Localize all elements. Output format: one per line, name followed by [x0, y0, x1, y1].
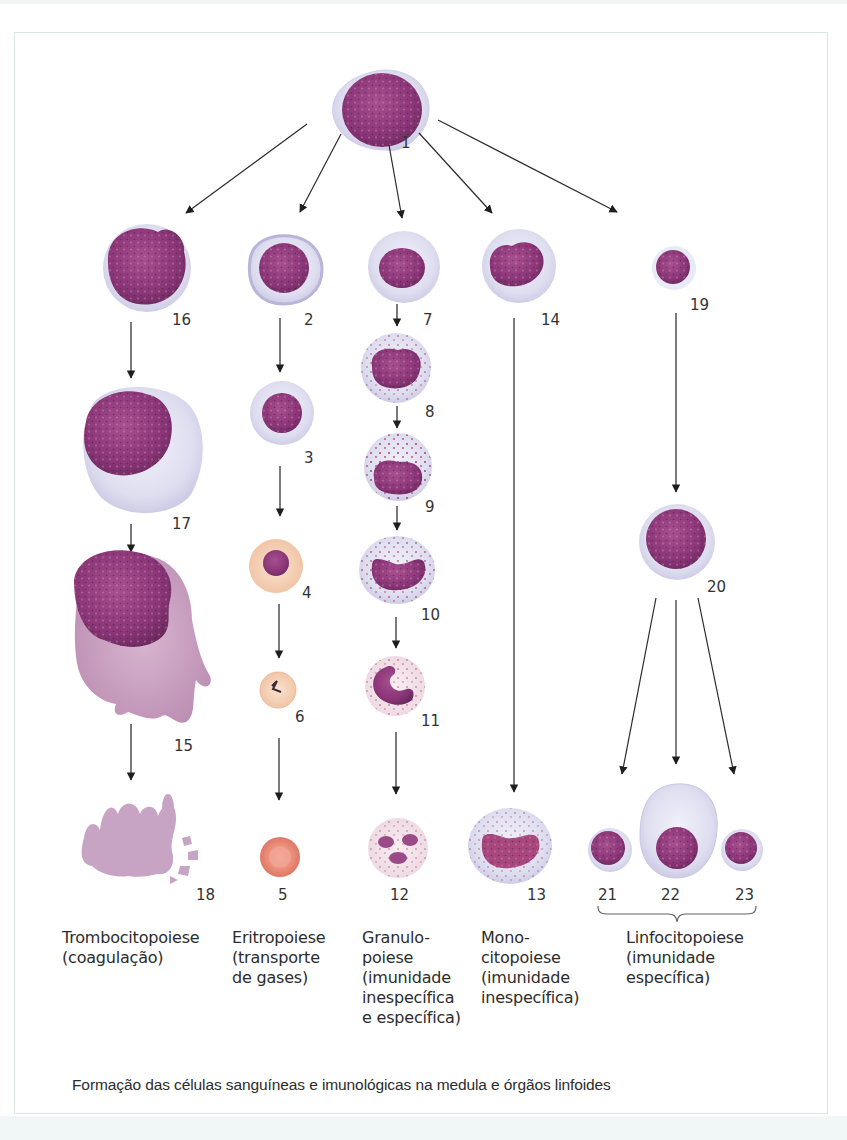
cell-label-11: 11	[421, 714, 440, 729]
cell-label-9: 9	[425, 500, 435, 515]
lineage-caption-granulopoiese: Granulo- poiese (imunidade inespecífica …	[362, 928, 461, 1028]
cell-12	[368, 818, 428, 878]
cell-9	[364, 433, 432, 501]
arrows-from-20	[622, 598, 734, 774]
cell-label-10: 10	[421, 608, 440, 623]
cell-22	[640, 784, 717, 878]
cell-label-4: 4	[302, 586, 312, 601]
cell-14	[482, 229, 556, 303]
cell-2	[249, 236, 322, 304]
cell-label-23: 23	[735, 888, 754, 903]
lineage-caption-linfocitopoiese: Linfocitopoiese (imunidade específica)	[626, 928, 744, 988]
cell-13	[468, 808, 552, 884]
cell-6	[260, 672, 296, 708]
cell-label-19: 19	[690, 298, 709, 313]
cell-label-20: 20	[707, 580, 726, 595]
cell-20	[639, 504, 715, 580]
lineage-caption-eritropoiese: Eritropoiese (transporte de gases)	[232, 928, 325, 988]
cell-23	[721, 829, 763, 871]
cell-10	[359, 536, 435, 604]
cell-5	[260, 837, 300, 877]
cell-label-6: 6	[295, 710, 305, 725]
cell-4	[249, 539, 303, 593]
cell-label-3: 3	[304, 451, 314, 466]
lineage-caption-trombocitopoiese: Trombocitopoiese (coagulação)	[62, 928, 200, 968]
cell-label-2: 2	[304, 313, 314, 328]
cell-label-22: 22	[661, 888, 680, 903]
cell-label-15: 15	[174, 739, 193, 754]
cell-21	[588, 828, 632, 872]
cell-1	[333, 70, 429, 150]
cell-label-14: 14	[541, 313, 560, 328]
cell-label-18: 18	[196, 888, 215, 903]
cell-label-8: 8	[425, 405, 435, 420]
figure-caption: Formação das células sanguíneas e imunol…	[72, 1076, 611, 1094]
cell-label-12: 12	[390, 888, 409, 903]
cell-label-5: 5	[278, 888, 288, 903]
lineage-caption-monocitopoiese: Mono- citopoiese (imunidade inespecífica…	[481, 928, 579, 1008]
cell-3	[250, 381, 314, 445]
cell-18	[82, 794, 198, 884]
cell-7	[368, 231, 440, 303]
cell-label-1: 1	[401, 136, 411, 151]
cell-16	[103, 224, 191, 312]
cell-15	[74, 550, 211, 722]
cell-17	[83, 387, 203, 513]
lymphocyte-brace	[598, 906, 756, 922]
cell-19	[652, 246, 696, 290]
cell-8	[361, 333, 431, 403]
cell-label-16: 16	[172, 313, 191, 328]
cell-11	[365, 656, 425, 716]
cell-label-7: 7	[423, 313, 433, 328]
cell-label-13: 13	[527, 888, 546, 903]
cell-label-17: 17	[172, 517, 191, 532]
cell-label-21: 21	[598, 888, 617, 903]
